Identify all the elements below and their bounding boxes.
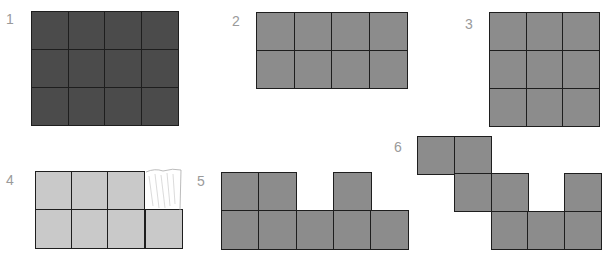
figure-5-cell <box>333 210 372 250</box>
pencil-sketch-mark <box>143 166 185 212</box>
figure-4-cell <box>35 209 73 249</box>
figure-4-cell <box>35 171 73 211</box>
figure-label-6: 6 <box>394 140 402 154</box>
figure-3-cell <box>489 12 527 51</box>
figure-2-cell <box>294 12 333 51</box>
figure-1-cell <box>68 87 106 126</box>
figure-1-cell <box>104 49 142 88</box>
figure-4-cell <box>145 209 183 249</box>
figure-2-cell <box>331 12 370 51</box>
figure-1-cell <box>141 49 179 88</box>
figure-4-cell <box>107 209 145 249</box>
figure-5-cell <box>333 172 372 212</box>
figure-6-cell <box>564 173 602 212</box>
figure-1-cell <box>141 11 179 50</box>
figure-4-cell <box>71 209 109 249</box>
figure-2-cell <box>294 50 333 89</box>
figure-2-cell <box>331 50 370 89</box>
figure-6-cell <box>564 211 602 250</box>
figure-3-cell <box>526 88 564 127</box>
figure-3-cell <box>562 50 600 89</box>
figure-2-cell <box>369 50 408 89</box>
figure-label-3: 3 <box>465 17 473 31</box>
figure-4-cell <box>107 171 145 211</box>
figure-3-cell <box>562 88 600 127</box>
figure-1-cell <box>31 11 69 50</box>
figure-label-4: 4 <box>6 173 14 187</box>
figure-4-cell <box>71 171 109 211</box>
figure-6-cell <box>417 136 455 175</box>
figure-1-cell <box>31 49 69 88</box>
figure-5-cell <box>258 210 297 250</box>
figure-5-cell <box>221 210 260 250</box>
figure-1-cell <box>141 87 179 126</box>
figure-6-cell <box>454 136 492 175</box>
figure-1-cell <box>31 87 69 126</box>
figure-1-cell <box>68 11 106 50</box>
figure-5-cell <box>221 172 260 212</box>
figure-2-cell <box>369 12 408 51</box>
figure-label-1: 1 <box>6 12 14 26</box>
figure-3-cell <box>489 88 527 127</box>
figure-1-cell <box>68 49 106 88</box>
figure-3-cell <box>562 12 600 51</box>
figure-1-cell <box>104 87 142 126</box>
figure-5-cell <box>296 210 335 250</box>
figure-3-cell <box>526 12 564 51</box>
figure-2-cell <box>256 12 295 51</box>
figure-2-cell <box>256 50 295 89</box>
figure-1-cell <box>104 11 142 50</box>
figure-6-cell <box>491 211 529 250</box>
figure-6-cell <box>491 173 529 212</box>
figure-label-2: 2 <box>232 14 240 28</box>
figure-5-cell <box>258 172 297 212</box>
figure-3-cell <box>489 50 527 89</box>
figure-label-5: 5 <box>197 174 205 188</box>
figure-3-cell <box>526 50 564 89</box>
figure-6-cell <box>454 173 492 212</box>
figure-6-cell <box>527 211 565 250</box>
figure-5-cell <box>370 210 409 250</box>
